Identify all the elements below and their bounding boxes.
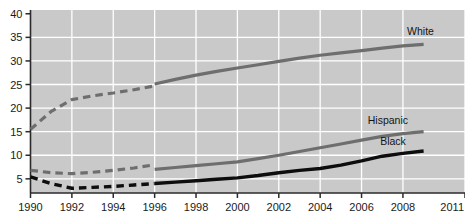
y-tick-label: 15 (10, 126, 22, 138)
y-tick-label: 20 (10, 102, 22, 114)
series-label: Hispanic (368, 114, 408, 126)
y-tick-label: 35 (10, 31, 22, 43)
x-tick-label: 2000 (225, 201, 249, 213)
y-tick-label: 10 (10, 149, 22, 161)
x-tick-label: 2002 (267, 201, 291, 213)
y-tick-label: 25 (10, 79, 22, 91)
y-tick-label: 5 (16, 173, 22, 185)
x-tick-label: 1992 (60, 201, 84, 213)
x-tick-label: 2004 (308, 201, 332, 213)
series-label: White (407, 25, 434, 37)
y-tick-label: 40 (10, 8, 22, 20)
x-tick-label: 2011 (440, 201, 464, 213)
series-label: Black (380, 135, 406, 147)
x-tick-label: 1996 (142, 201, 166, 213)
x-tick-label: 2006 (349, 201, 373, 213)
x-tick-label: 2008 (391, 201, 415, 213)
x-tick-label: 1990 (18, 201, 42, 213)
y-tick-label: 30 (10, 55, 22, 67)
chart-container: 510152025303540 199019921994199619982000… (0, 0, 465, 220)
x-tick-label: 1994 (101, 201, 125, 213)
x-tick-label: 1998 (184, 201, 208, 213)
line-chart: 510152025303540 199019921994199619982000… (0, 0, 465, 220)
